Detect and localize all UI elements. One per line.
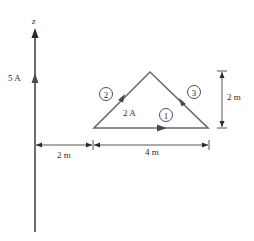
segment-label-2: 2 xyxy=(100,88,113,101)
segment-label-1: 1 xyxy=(160,109,173,122)
loop-current-label: 2 A xyxy=(123,108,136,118)
height-dimension xyxy=(217,71,227,128)
wire-to-loop-dimension-label: 2 m xyxy=(57,150,71,160)
z-axis-label: z xyxy=(31,16,36,26)
svg-text:1: 1 xyxy=(164,111,169,121)
current-wire xyxy=(32,28,39,232)
height-dimension-label: 2 m xyxy=(227,92,241,102)
segment-label-3: 3 xyxy=(188,86,201,99)
wire-to-loop-dimension xyxy=(36,140,93,150)
wire-current-label: 5 A xyxy=(8,73,21,83)
segment-2-arrow-icon xyxy=(118,94,125,103)
svg-text:3: 3 xyxy=(192,88,197,98)
diagram-canvas: z 5 A 2 3 1 2 A 2 m 2 m xyxy=(0,0,254,241)
segment-1-arrow-icon xyxy=(157,125,167,132)
current-direction-arrow-icon xyxy=(32,73,39,83)
svg-text:2: 2 xyxy=(104,90,109,100)
triangular-loop xyxy=(94,72,208,132)
base-dimension-label: 4 m xyxy=(145,147,159,157)
z-axis-arrow-icon xyxy=(32,28,39,38)
